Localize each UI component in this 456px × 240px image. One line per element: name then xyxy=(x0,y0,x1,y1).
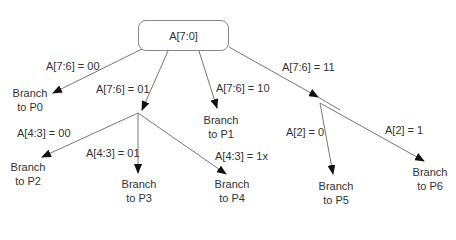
edge-n1 xyxy=(142,51,168,110)
leaf-p0-line2: to P0 xyxy=(10,100,50,114)
leaf-p6-line1: Branch xyxy=(410,165,450,179)
leaf-p5-line1: Branch xyxy=(316,179,356,193)
edge-label-p6: A[2] = 1 xyxy=(385,124,423,137)
leaf-p4-line1: Branch xyxy=(212,177,252,191)
leaf-p3: Branch to P3 xyxy=(119,177,159,205)
root-node: A[7:0] xyxy=(138,20,229,51)
leaf-p6: Branch to P6 xyxy=(410,165,450,193)
leaf-p3-line1: Branch xyxy=(119,177,159,191)
leaf-p2: Branch to P2 xyxy=(8,160,48,188)
edge-label-p2: A[4:3] = 00 xyxy=(17,127,71,140)
leaf-p4-line2: to P4 xyxy=(212,191,252,205)
edge-label-p4: A[4:3] = 1x xyxy=(215,150,268,163)
leaf-p1-line1: Branch xyxy=(201,113,241,127)
leaf-p2-line2: to P2 xyxy=(8,174,48,188)
edge-label-p3: A[4:3] = 01 xyxy=(86,147,140,160)
leaf-p1: Branch to P1 xyxy=(201,113,241,141)
edge-label-p0: A[7:6] = 00 xyxy=(46,60,100,73)
leaf-p5-line2: to P5 xyxy=(316,193,356,207)
edge-label-p1: A[7:6] = 10 xyxy=(216,82,270,95)
leaf-p0-line1: Branch xyxy=(10,86,50,100)
leaf-p0: Branch to P0 xyxy=(10,86,50,114)
leaf-p2-line1: Branch xyxy=(8,160,48,174)
edge-label-n1: A[7:6] = 01 xyxy=(96,83,150,96)
edge-label-p5: A[2] = 0 xyxy=(286,126,324,139)
edge-label-n2: A[7:6] = 11 xyxy=(282,61,335,74)
leaf-p5: Branch to P5 xyxy=(316,179,356,207)
edge-p1 xyxy=(199,51,217,108)
leaf-p1-line2: to P1 xyxy=(201,127,241,141)
leaf-p6-line2: to P6 xyxy=(410,179,450,193)
leaf-p4: Branch to P4 xyxy=(212,177,252,205)
leaf-p3-line2: to P3 xyxy=(119,191,159,205)
root-label: A[7:0] xyxy=(169,30,198,42)
